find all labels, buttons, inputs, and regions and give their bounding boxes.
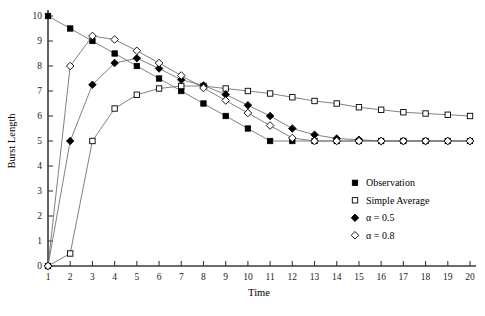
x-tick-label: 6: [157, 272, 162, 282]
marker-open-diamond: [133, 47, 141, 55]
legend-label: α = 0.5: [366, 212, 394, 223]
series-1: [45, 83, 472, 268]
marker-filled-square: [223, 113, 228, 118]
x-tick-label: 14: [332, 272, 342, 282]
x-tick-label: 8: [201, 272, 206, 282]
marker-filled-diamond: [266, 112, 274, 120]
x-tick-label: 11: [266, 272, 275, 282]
legend-label: α = 0.8: [366, 230, 394, 241]
marker-open-square: [356, 105, 361, 110]
marker-open-diamond: [266, 122, 274, 130]
legend-entry-3: α = 0.8: [351, 230, 394, 241]
x-tick-label: 4: [112, 272, 117, 282]
x-tick-label: 13: [310, 272, 320, 282]
marker-open-square: [267, 91, 272, 96]
marker-filled-square: [156, 76, 161, 81]
y-tick-label: 6: [37, 111, 42, 121]
marker-filled-diamond: [289, 125, 297, 133]
x-tick-label: 10: [243, 272, 253, 282]
marker-filled-square: [201, 101, 206, 106]
series-line: [48, 58, 470, 266]
marker-open-square: [378, 107, 383, 112]
legend-entry-2: α = 0.5: [351, 212, 394, 223]
x-tick-label: 16: [376, 272, 386, 282]
marker-open-diamond: [66, 62, 74, 70]
y-tick-label: 1: [37, 236, 42, 246]
legend-label: Observation: [366, 177, 415, 188]
x-axis-title: Time: [248, 287, 270, 298]
y-tick-label: 4: [37, 161, 42, 171]
marker-open-square: [68, 251, 73, 256]
marker-filled-diamond: [133, 54, 141, 62]
x-tick-label: 15: [354, 272, 364, 282]
marker-open-square: [445, 112, 450, 117]
marker-open-square: [245, 88, 250, 93]
caption-fragment: [4, 303, 154, 312]
x-tick-label: 12: [288, 272, 298, 282]
marker-open-square: [134, 92, 139, 97]
marker-filled-square: [267, 138, 272, 143]
x-tick-label: 19: [443, 272, 453, 282]
marker-open-square: [312, 98, 317, 103]
marker-open-square: [467, 113, 472, 118]
marker-filled-diamond: [66, 137, 74, 145]
marker-open-diamond: [351, 232, 359, 240]
marker-filled-square: [352, 180, 357, 185]
x-tick-label: 9: [223, 272, 228, 282]
marker-open-diamond: [155, 59, 163, 67]
marker-open-diamond: [111, 36, 119, 44]
marker-filled-square: [68, 26, 73, 31]
series-line: [48, 36, 470, 266]
y-tick-label: 10: [33, 11, 43, 21]
series-line: [48, 16, 470, 141]
legend-entry-1: Simple Average: [352, 195, 430, 206]
marker-open-square: [156, 86, 161, 91]
marker-filled-diamond: [244, 101, 252, 109]
marker-filled-square: [112, 51, 117, 56]
y-tick-label: 5: [37, 136, 42, 146]
x-tick-label: 7: [179, 272, 184, 282]
marker-open-square: [90, 138, 95, 143]
burst-length-line-chart: 0123456789101234567891011121314151617181…: [0, 0, 485, 316]
marker-filled-square: [245, 126, 250, 131]
y-tick-label: 8: [37, 61, 42, 71]
marker-open-square: [334, 101, 339, 106]
y-axis-title: Burst Length: [6, 113, 17, 169]
marker-open-diamond: [222, 97, 230, 105]
y-tick-label: 3: [37, 186, 42, 196]
marker-open-square: [352, 198, 357, 203]
chart-canvas: 0123456789101234567891011121314151617181…: [0, 0, 485, 316]
marker-open-square: [423, 111, 428, 116]
x-tick-label: 17: [399, 272, 409, 282]
y-tick-label: 7: [37, 86, 42, 96]
x-tick-label: 18: [421, 272, 431, 282]
marker-open-diamond: [244, 109, 252, 117]
marker-filled-square: [134, 63, 139, 68]
series-0: [45, 13, 472, 143]
series-3: [44, 32, 474, 270]
marker-filled-square: [45, 13, 50, 18]
y-tick-label: 0: [37, 261, 42, 271]
y-tick-label: 2: [37, 211, 42, 221]
series-2: [44, 54, 474, 269]
series-line: [48, 86, 470, 266]
x-tick-label: 5: [134, 272, 139, 282]
marker-filled-diamond: [351, 214, 359, 222]
x-tick-label: 20: [465, 272, 475, 282]
legend-entry-0: Observation: [352, 177, 415, 188]
marker-open-square: [401, 110, 406, 115]
y-tick-label: 9: [37, 36, 42, 46]
legend-label: Simple Average: [366, 195, 430, 206]
marker-open-square: [290, 95, 295, 100]
x-tick-label: 3: [90, 272, 95, 282]
marker-open-square: [112, 106, 117, 111]
x-tick-label: 1: [46, 272, 51, 282]
x-tick-label: 2: [68, 272, 73, 282]
